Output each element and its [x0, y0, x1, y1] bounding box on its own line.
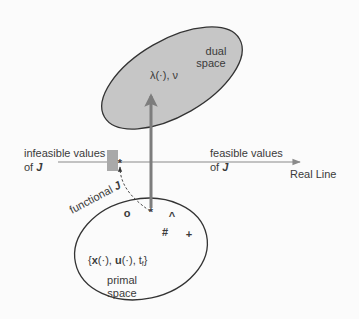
feasible-values-label: feasible values: [210, 147, 283, 159]
optimum-marker-on-line: *: [118, 157, 123, 169]
diagram-canvas: dual space λ(·), ν * infeasible values o…: [0, 0, 359, 319]
feasible-of-j-label: of J: [210, 161, 229, 173]
dual-space-label-2: space: [196, 57, 225, 69]
real-line-label: Real Line: [290, 168, 336, 180]
primal-elements-label: {x(·), u(·), tf}: [88, 254, 148, 267]
point-hash: #: [162, 226, 168, 238]
dual-space-label-1: dual: [206, 45, 227, 57]
dual-multipliers-label: λ(·), ν: [150, 69, 179, 81]
infeasible-of-j-label: of J: [24, 161, 43, 173]
point-o: o: [124, 207, 131, 219]
point-caret: ^: [169, 210, 176, 222]
point-optimal: *: [149, 206, 154, 218]
point-plus: +: [186, 228, 192, 240]
primal-space-label-1: primal: [107, 274, 137, 286]
primal-space-label-2: space: [107, 287, 136, 299]
infeasible-region-block: [107, 150, 118, 171]
infeasible-values-label: infeasible values: [24, 147, 106, 159]
